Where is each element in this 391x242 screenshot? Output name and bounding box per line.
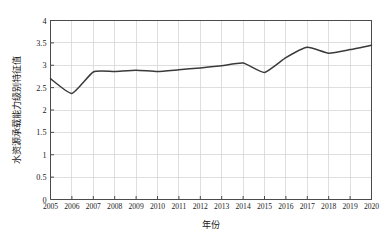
y-tick-label: 4: [42, 17, 46, 26]
series-line: [51, 45, 372, 93]
y-tick-label: 1: [42, 151, 46, 160]
y-axis-title: 水资源承载能力级别特征值: [11, 56, 22, 164]
gridlines: [51, 21, 372, 200]
x-tick-label: 2014: [236, 202, 251, 211]
y-tick-label: 0.5: [36, 173, 46, 182]
x-tick-label: 2010: [150, 202, 165, 211]
x-tick-label: 2007: [86, 202, 101, 211]
y-axis-ticks: 00.511.522.533.54: [36, 17, 54, 205]
y-tick-label: 2: [42, 106, 46, 115]
x-tick-label: 2020: [364, 202, 379, 211]
y-tick-label: 1.5: [36, 128, 46, 137]
y-tick-label: 2.5: [36, 84, 46, 93]
x-axis-title: 年份: [202, 219, 220, 230]
x-tick-label: 2018: [321, 202, 336, 211]
chart-figure: 00.511.522.533.54 2005200620072008200920…: [0, 0, 391, 242]
x-tick-label: 2012: [193, 202, 208, 211]
x-tick-label: 2013: [214, 202, 229, 211]
data-series: [51, 45, 372, 93]
x-tick-label: 2006: [64, 202, 79, 211]
x-tick-label: 2017: [300, 202, 315, 211]
x-tick-label: 2011: [171, 202, 186, 211]
line-chart: 00.511.522.533.54 2005200620072008200920…: [0, 0, 391, 242]
x-tick-label: 2005: [43, 202, 58, 211]
x-tick-label: 2009: [129, 202, 144, 211]
x-axis-ticks: 2005200620072008200920102011201220132014…: [43, 196, 379, 211]
x-tick-label: 2016: [278, 202, 293, 211]
x-tick-label: 2008: [107, 202, 122, 211]
x-tick-label: 2019: [343, 202, 358, 211]
y-tick-label: 3.5: [36, 39, 46, 48]
x-tick-label: 2015: [257, 202, 272, 211]
y-tick-label: 3: [42, 61, 46, 70]
